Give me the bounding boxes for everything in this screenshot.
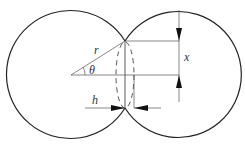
label-x: x (183, 50, 190, 64)
angle-arc (83, 67, 85, 75)
label-theta: θ (89, 63, 95, 77)
two-sphere-contact-diagram: r θ x h (0, 0, 245, 148)
label-r: r (94, 43, 99, 57)
h-arrow-right (134, 105, 148, 111)
x-arrow-bottom (176, 75, 182, 88)
x-arrow-top (176, 28, 182, 41)
diagram-canvas: r θ x h (0, 0, 245, 148)
label-h: h (92, 93, 98, 107)
right-circle (125, 12, 241, 138)
h-arrow-left (111, 105, 125, 111)
left-circle (6, 10, 125, 138)
